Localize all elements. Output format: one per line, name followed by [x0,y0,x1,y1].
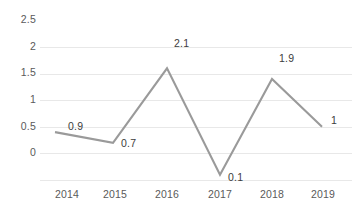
x-axis-tick-2017: 2017 [197,189,243,200]
plot-area: 2.5 2 1.5 1 0.5 0 0.9 0.7 2.1 0.1 1.9 1 … [0,0,362,223]
data-label-2015: 0.7 [121,138,136,149]
data-label-2014: 0.9 [68,121,83,132]
x-axis-tick-2014: 2014 [44,189,90,200]
x-axis-tick-2019: 2019 [300,189,346,200]
x-axis-tick-2016: 2016 [144,189,190,200]
line-chart: 2.5 2 1.5 1 0.5 0 0.9 0.7 2.1 0.1 1.9 1 … [0,0,362,223]
data-label-2017: 0.1 [228,172,243,183]
data-label-2018: 1.9 [279,53,294,64]
x-axis-tick-2015: 2015 [92,189,138,200]
data-label-2019: 1 [331,115,337,126]
data-label-2016: 2.1 [174,38,189,49]
x-axis-tick-2018: 2018 [249,189,295,200]
